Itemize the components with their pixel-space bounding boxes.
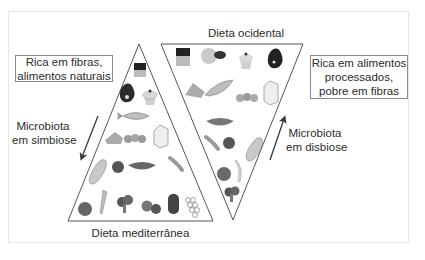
symbiosis-arrow-icon: [82, 116, 98, 157]
mediterranean-diet-title: Dieta mediterrânea: [88, 226, 193, 240]
chocolate-icon: [176, 48, 190, 66]
chocolate-icon: [134, 63, 146, 77]
description-line: alimentos naturais: [17, 69, 110, 83]
description-line: pobre em fibras: [319, 84, 399, 98]
fish-icon: [117, 112, 149, 120]
peas-icon: [206, 137, 218, 149]
eggs-icon: [124, 134, 146, 143]
walnut-icon: [112, 161, 124, 173]
symbiosis-label: Microbiota em simbiose: [12, 119, 74, 147]
apple-icon: [217, 167, 231, 181]
cupcake-icon: [143, 90, 157, 106]
cheese-icon: [185, 83, 205, 98]
western-diet-title: Dieta ocidental: [196, 26, 296, 40]
eggs-icon: [236, 93, 258, 102]
description-line: Rica em alimentos: [312, 56, 407, 70]
grapes-icon: [186, 198, 200, 218]
red-meat-icon: [268, 49, 283, 69]
donuts-icon: [201, 48, 226, 64]
pepper-icon: [168, 194, 179, 214]
dysbiosis-arrow-icon: [270, 119, 284, 160]
milk-carton-icon: [264, 81, 278, 105]
description-line: Rica em fibras,: [26, 55, 103, 69]
dysbiosis-label-line: Microbiota: [286, 126, 344, 140]
milk-carton-icon: [154, 125, 168, 148]
bread-icon: [246, 138, 263, 162]
fish-icon: [205, 80, 233, 96]
symbiosis-label-line: em simbiose: [12, 133, 74, 147]
dysbiosis-label-line: em disbiose: [286, 140, 344, 154]
banana-icon: [235, 160, 241, 182]
bowl-icon: [206, 118, 234, 126]
symbiosis-label-line: Microbiota: [12, 119, 74, 133]
walnut-icon: [223, 137, 235, 149]
western-pyramid: [161, 44, 303, 220]
peas-icon: [170, 158, 182, 170]
broccoli-icon: [117, 195, 133, 213]
dysbiosis-label: Microbiota em disbiose: [286, 126, 344, 154]
western-description-box: Rica em alimentos processados, pobre em …: [310, 55, 408, 99]
broccoli-icon: [225, 187, 240, 203]
description-line: processados,: [325, 70, 393, 84]
cheese-icon: [105, 132, 123, 144]
mediterranean-description-box: Rica em fibras, alimentos naturais: [15, 55, 113, 82]
apple-icon: [78, 202, 92, 216]
tomatoes-icon: [142, 201, 162, 215]
carrot-icon: [100, 190, 107, 214]
cupcake-icon: [239, 53, 253, 70]
bowl-icon: [128, 162, 156, 170]
